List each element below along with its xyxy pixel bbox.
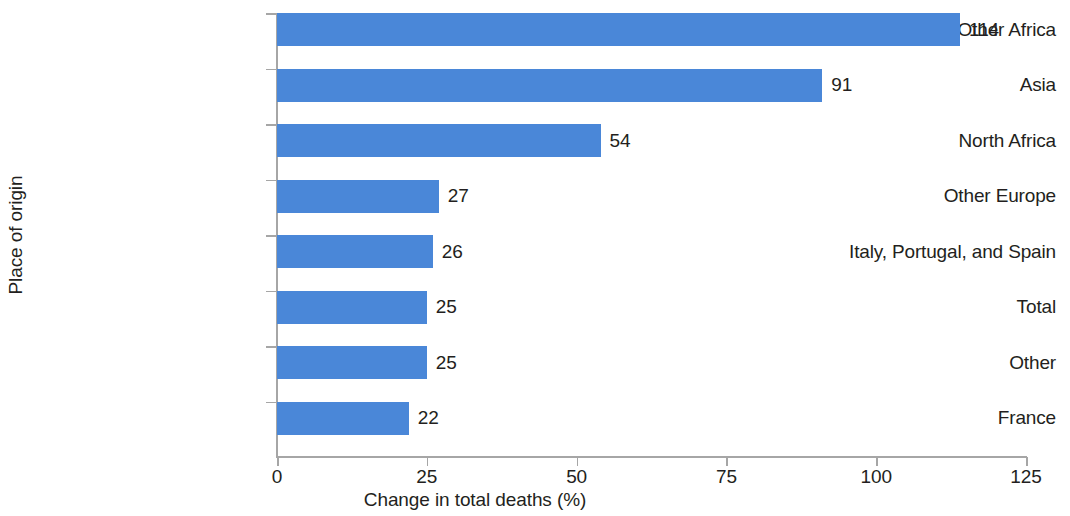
bar-value-label: 22 [409,402,439,435]
y-axis-tick [266,291,277,293]
category-label: France [802,391,1070,447]
bar [277,346,427,379]
y-axis-tick [266,124,277,126]
x-axis-tick [1026,457,1028,466]
bar [277,291,427,324]
bar [277,180,439,213]
y-axis-tick [266,346,277,348]
category-label: Other Europe [802,169,1070,225]
bar-value-label: 26 [433,235,463,268]
bar-row: Other Europe27 [0,169,1070,225]
x-axis-tick [876,457,878,466]
x-axis-tick-label: 100 [860,466,891,488]
bar-chart: Place of origin Other Africa114Asia91Nor… [0,0,1070,516]
x-axis-tick [277,457,279,466]
y-axis-tick [266,180,277,182]
x-axis-tick-label: 75 [716,466,737,488]
category-label: Italy, Portugal, and Spain [802,224,1070,280]
bar [277,235,433,268]
bar-row: Other25 [0,335,1070,391]
y-axis-tick [266,402,277,404]
category-label: Total [802,280,1070,336]
bar-value-label: 27 [439,180,469,213]
x-axis-title: Change in total deaths (%) [0,489,1070,511]
plot-area: Other Africa114Asia91North Africa54Other… [0,0,1070,470]
bar-row: North Africa54 [0,113,1070,169]
y-axis-tick [266,69,277,71]
bar-value-label: 91 [822,69,852,102]
x-axis-tick-label: 0 [272,466,282,488]
bar-row: Total25 [0,280,1070,336]
category-label: North Africa [802,113,1070,169]
x-axis-tick-label: 125 [1010,466,1041,488]
x-axis-tick [577,457,579,466]
bar-value-label: 25 [427,346,457,379]
x-axis-tick-label: 25 [416,466,437,488]
x-axis-tick-label: 50 [566,466,587,488]
bar-row: Other Africa114 [0,2,1070,58]
y-axis-tick [266,235,277,237]
x-axis-tick [726,457,728,466]
x-axis-title-text: Change in total deaths (%) [364,489,586,511]
y-axis-tick [266,13,277,15]
category-label: Other [802,335,1070,391]
bar [277,69,822,102]
bar [277,402,409,435]
bar-row: France22 [0,391,1070,447]
bar-value-label: 114 [960,13,999,46]
bar-value-label: 25 [427,291,457,324]
bar-row: Asia91 [0,58,1070,114]
bar-value-label: 54 [601,124,631,157]
x-axis-tick [427,457,429,466]
bar [277,13,960,46]
bar [277,124,601,157]
x-axis-line [276,456,1027,458]
bar-row: Italy, Portugal, and Spain26 [0,224,1070,280]
